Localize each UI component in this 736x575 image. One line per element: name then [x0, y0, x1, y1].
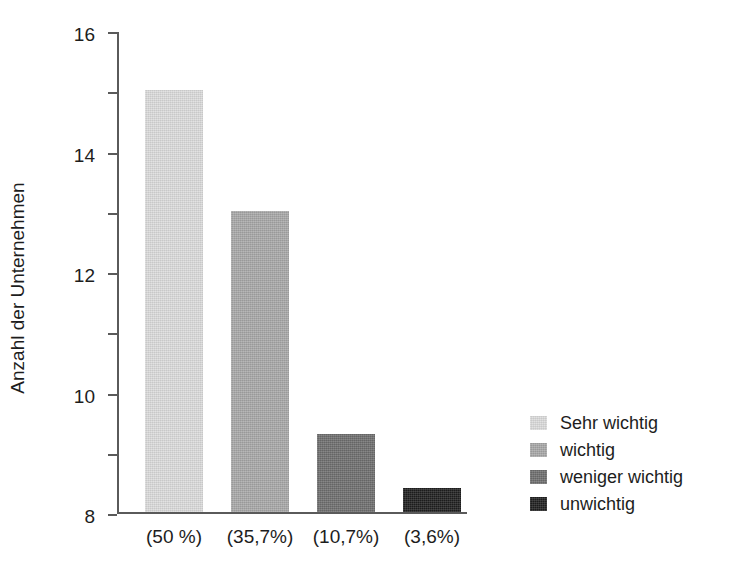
legend-swatch-icon — [530, 497, 547, 511]
legend-swatch-icon — [530, 443, 547, 457]
bar — [231, 211, 289, 512]
x-axis-label: (50 %) — [146, 526, 202, 548]
y-tick-mark: 12 — [108, 153, 117, 155]
legend-swatch-texture — [530, 443, 547, 457]
bar-texture — [231, 211, 289, 512]
x-axis-label: (3,6%) — [404, 526, 460, 548]
legend-item: wichtig — [530, 436, 683, 463]
bar-chart: Anzahl der Unternehmen 0246810121416 (50… — [0, 0, 736, 575]
legend-label: wichtig — [560, 441, 615, 459]
bar-texture — [403, 488, 461, 512]
plot-area: 0246810121416 (50 %)(35,7%)(10,7%)(3,6%) — [117, 30, 467, 514]
y-tick-label: 14 — [74, 145, 95, 164]
legend-swatch-texture — [530, 416, 547, 430]
y-axis-title: Anzahl der Unternehmen — [7, 182, 29, 393]
y-tick-label: 8 — [84, 507, 95, 526]
x-axis-label: (35,7%) — [227, 526, 294, 548]
legend-label: unwichtig — [560, 495, 635, 513]
bar-texture — [145, 90, 203, 512]
legend-swatch-icon — [530, 416, 547, 430]
y-tick-mark: 14 — [108, 92, 117, 94]
bar — [145, 90, 203, 512]
legend-swatch-icon — [530, 470, 547, 484]
y-tick-mark: 8 — [108, 273, 117, 275]
legend-item: weniger wichtig — [530, 463, 683, 490]
bar — [403, 488, 461, 512]
legend-swatch-texture — [530, 470, 547, 484]
legend-label: Sehr wichtig — [560, 414, 658, 432]
legend-item: Sehr wichtig — [530, 409, 683, 436]
x-axis-line — [117, 512, 467, 514]
y-axis-line — [117, 32, 119, 514]
x-axis-label: (10,7%) — [313, 526, 380, 548]
legend-item: unwichtig — [530, 490, 683, 517]
y-tick-mark: 16 — [108, 32, 117, 34]
y-tick-label: 12 — [74, 266, 95, 285]
y-tick-mark: 6 — [108, 333, 117, 335]
y-tick-mark: 10 — [108, 213, 117, 215]
y-tick-mark: 0 — [108, 514, 117, 516]
y-tick-label: 16 — [74, 25, 95, 44]
legend-label: weniger wichtig — [560, 468, 683, 486]
y-tick-mark: 4 — [108, 394, 117, 396]
y-tick-mark: 2 — [108, 454, 117, 456]
legend: Sehr wichtigwichtigweniger wichtigunwich… — [530, 409, 683, 517]
bar-texture — [317, 434, 375, 512]
y-tick-label: 10 — [74, 386, 95, 405]
legend-swatch-texture — [530, 497, 547, 511]
bar — [317, 434, 375, 512]
